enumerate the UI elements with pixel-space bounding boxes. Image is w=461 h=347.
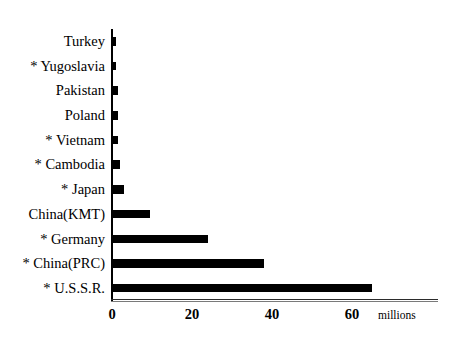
- bar-chart: Turkey * Yugoslavia Pakistan Poland * Vi: [0, 0, 461, 347]
- bar-label-germany: * Germany: [0, 227, 111, 252]
- table-row: Turkey: [0, 29, 461, 54]
- bar-label-china-kmt: China(KMT): [0, 202, 111, 227]
- table-row: China(KMT): [0, 202, 461, 227]
- tick-label-60: 60: [332, 304, 372, 324]
- table-row: * Vietnam: [0, 128, 461, 153]
- axis-unit-label: millions: [378, 306, 416, 324]
- bar-label-cambodia: * Cambodia: [0, 152, 111, 177]
- bar-label-china-prc: * China(PRC): [0, 251, 111, 276]
- value-axis-tick-labels: 0 20 40 60 millions: [0, 304, 461, 326]
- bar-label-yugoslavia: * Yugoslavia: [0, 54, 111, 79]
- bar-pakistan: [112, 86, 118, 95]
- bar-label-poland: Poland: [0, 103, 111, 128]
- table-row: * Cambodia: [0, 152, 461, 177]
- bar-track: [112, 54, 452, 79]
- bar-turkey: [112, 37, 116, 46]
- bar-track: [112, 152, 452, 177]
- bar-track: [112, 78, 452, 103]
- table-row: * Yugoslavia: [0, 54, 461, 79]
- table-row: * China(PRC): [0, 251, 461, 276]
- bar-poland: [112, 111, 118, 120]
- bar-track: [112, 177, 452, 202]
- bar-cambodia: [112, 160, 120, 169]
- tick-label-20: 20: [172, 304, 212, 324]
- bar-track: [112, 202, 452, 227]
- bar-track: [112, 29, 452, 54]
- tick-label-0: 0: [92, 304, 132, 324]
- bar-label-turkey: Turkey: [0, 29, 111, 54]
- bar-label-pakistan: Pakistan: [0, 78, 111, 103]
- table-row: * Japan: [0, 177, 461, 202]
- bar-label-ussr: * U.S.S.R.: [0, 276, 111, 301]
- table-row: Pakistan: [0, 78, 461, 103]
- bar-germany: [112, 235, 208, 244]
- bar-track: [112, 276, 452, 301]
- bar-track: [112, 128, 452, 153]
- bar-track: [112, 103, 452, 128]
- bar-yugoslavia: [112, 62, 116, 71]
- table-row: * U.S.S.R.: [0, 276, 461, 301]
- bar-rows: Turkey * Yugoslavia Pakistan Poland * Vi: [0, 29, 461, 301]
- tick-label-40: 40: [252, 304, 292, 324]
- bar-label-japan: * Japan: [0, 177, 111, 202]
- value-axis-baseline: [111, 301, 438, 302]
- bar-track: [112, 227, 452, 252]
- bar-vietnam: [112, 136, 118, 145]
- bar-japan: [112, 185, 124, 194]
- bar-ussr: [112, 284, 372, 293]
- bar-china-prc: [112, 259, 264, 268]
- value-axis-line: [111, 299, 438, 300]
- table-row: Poland: [0, 103, 461, 128]
- bar-track: [112, 251, 452, 276]
- bar-label-vietnam: * Vietnam: [0, 128, 111, 153]
- table-row: * Germany: [0, 227, 461, 252]
- bar-china-kmt: [112, 210, 150, 219]
